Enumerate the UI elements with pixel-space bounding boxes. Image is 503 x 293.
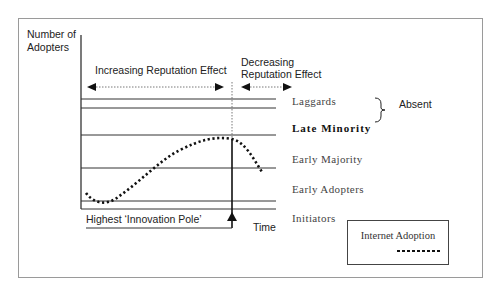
legend-title: Internet Adoption [348, 230, 448, 241]
category-initiators: Initiators [292, 212, 336, 224]
category-early-adopters: Early Adopters [292, 183, 364, 195]
absent-label: Absent [399, 98, 432, 110]
legend: Internet Adoption [347, 220, 449, 265]
decreasing-effect-line1: Decreasing [241, 56, 321, 68]
increasing-effect-label: Increasing Reputation Effect [95, 64, 227, 76]
category-laggards: Laggards [292, 95, 336, 107]
innovation-pole-label: Highest ‘Innovation Pole’ [86, 213, 202, 225]
arrow-left-icon [241, 83, 250, 91]
y-axis-label-line1: Number of [27, 28, 76, 41]
legend-dotted-line-icon [396, 249, 440, 253]
category-late-minority: Late Minority [292, 122, 371, 134]
y-axis-label: Number of Adopters [27, 28, 76, 54]
arrow-left-icon [87, 83, 96, 91]
pole-arrow-up-icon [227, 212, 237, 221]
decreasing-effect-line2: Reputation Effect [241, 68, 321, 80]
internet-adoption-curve [86, 138, 262, 203]
arrow-right-icon [283, 83, 292, 91]
arrow-right-icon [215, 83, 224, 91]
category-early-majority: Early Majority [292, 153, 363, 165]
decreasing-effect-label: Decreasing Reputation Effect [241, 56, 321, 80]
x-axis-label: Time [253, 221, 276, 233]
absent-brace [375, 98, 385, 122]
y-axis-label-line2: Adopters [27, 41, 76, 54]
